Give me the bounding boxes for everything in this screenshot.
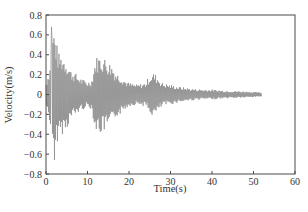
x-tick-label: 50 [249, 176, 259, 187]
y-tick-label: −0.8 [24, 169, 42, 180]
y-axis-title: Velocity(m/s) [3, 66, 15, 124]
x-axis-title: Time(s) [154, 183, 187, 195]
x-tick-label: 0 [44, 176, 49, 187]
y-tick-label: −0.4 [24, 129, 42, 140]
plot-area [46, 27, 262, 160]
y-tick-label: 0.8 [30, 10, 43, 21]
x-tick-label: 60 [290, 176, 300, 187]
y-tick-label: 0.6 [30, 29, 43, 40]
x-tick-label: 40 [207, 176, 217, 187]
y-tick-label: 0.4 [30, 49, 43, 60]
y-tick-label: −0.2 [24, 109, 42, 120]
y-tick-label: 0.2 [30, 69, 43, 80]
velocity-signal-line [46, 27, 262, 160]
velocity-time-chart: 0102030405060 0.80.60.40.20−0.2−0.4−0.6−… [0, 0, 308, 212]
y-tick-label: 0 [37, 89, 42, 100]
y-tick-label: −0.6 [24, 149, 42, 160]
y-axis: 0.80.60.40.20−0.2−0.4−0.6−0.8 [24, 10, 49, 180]
x-tick-label: 10 [83, 176, 93, 187]
x-tick-label: 20 [124, 176, 134, 187]
